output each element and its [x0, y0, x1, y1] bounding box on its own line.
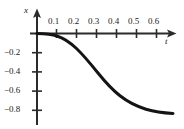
x-tick-label-1: 0.2 — [68, 17, 79, 26]
x-axis-label: t — [165, 37, 168, 46]
x-tick-label-5: 0.6 — [148, 17, 159, 26]
data-curve — [37, 34, 173, 114]
y-tick-label-1: −0.4 — [4, 67, 20, 76]
y-tick-label-0: −0.2 — [4, 48, 20, 57]
chart-figure: x t 0.1 0.2 0.3 0.4 0.5 0.6 −0.2 −0.4 −0… — [0, 0, 184, 129]
y-tick-label-3: −0.8 — [4, 105, 20, 114]
y-axis-label: x — [24, 6, 28, 15]
x-tick-label-2: 0.3 — [88, 17, 99, 26]
x-tick-label-0: 0.1 — [48, 17, 59, 26]
y-tick-label-2: −0.6 — [4, 86, 20, 95]
x-tick-label-4: 0.5 — [128, 17, 139, 26]
x-tick-label-3: 0.4 — [108, 17, 119, 26]
